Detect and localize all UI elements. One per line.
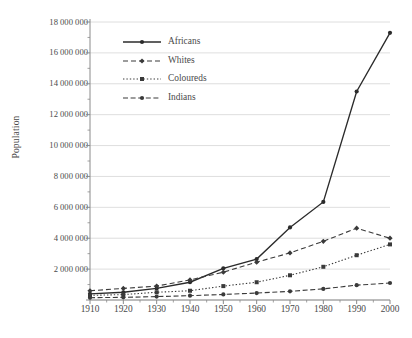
series-coloureds [88, 242, 392, 297]
legend-label-coloureds: Coloureds [168, 74, 207, 83]
data-point-marker [88, 296, 92, 300]
data-point-marker [139, 58, 144, 63]
legend-swatch-whites [122, 55, 162, 67]
legend-label-indians: Indians [168, 93, 196, 102]
plot-canvas [0, 0, 412, 338]
data-point-marker [140, 77, 144, 81]
data-point-marker [288, 289, 292, 293]
data-point-marker [355, 283, 359, 287]
data-point-marker [387, 236, 392, 241]
legend-swatch-indians [122, 92, 162, 104]
data-point-marker [388, 242, 392, 246]
series-whites [87, 226, 392, 294]
series-africans [88, 31, 392, 296]
data-point-marker [221, 284, 225, 288]
data-point-marker [321, 265, 325, 269]
data-point-marker [140, 40, 144, 44]
data-point-marker [155, 290, 159, 294]
population-line-chart: Population 2 000 0004 000 0006 000 0008 … [0, 0, 412, 338]
data-point-marker [155, 295, 159, 299]
data-point-marker [355, 253, 359, 257]
data-point-marker [354, 226, 359, 231]
data-point-marker [388, 281, 392, 285]
data-point-marker [288, 273, 292, 277]
data-point-marker [321, 239, 326, 244]
data-point-marker [140, 95, 144, 99]
data-point-marker [188, 294, 192, 298]
data-point-marker [255, 291, 259, 295]
data-point-marker [221, 270, 226, 275]
data-point-marker [288, 225, 292, 229]
data-point-marker [355, 89, 359, 93]
data-point-marker [321, 287, 325, 291]
data-point-marker [255, 280, 259, 284]
data-point-marker [188, 289, 192, 293]
legend-swatch-africans [122, 36, 162, 48]
legend-label-africans: Africans [168, 37, 200, 46]
data-point-marker [287, 250, 292, 255]
data-point-marker [321, 200, 325, 204]
data-point-marker [121, 295, 125, 299]
data-point-marker [87, 288, 92, 293]
legend-label-whites: Whites [168, 56, 195, 65]
data-point-marker [254, 260, 259, 265]
series-line [90, 33, 390, 294]
data-point-marker [388, 31, 392, 35]
data-point-marker [121, 286, 126, 291]
legend-swatch-coloureds [122, 73, 162, 85]
data-point-marker [221, 292, 225, 296]
series-line [90, 244, 390, 295]
